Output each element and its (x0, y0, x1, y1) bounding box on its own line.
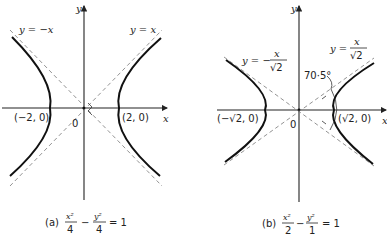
svg-text:√2: √2 (270, 62, 283, 73)
caption-den2-a: 4 (96, 224, 102, 235)
caption-a: (a) x² 4 − y² 4 = 1 (45, 212, 127, 235)
y-label-b: y (290, 3, 297, 14)
svg-text:x: x (274, 48, 280, 59)
caption-minus-a: − (81, 217, 89, 228)
y-label-a: y (75, 3, 82, 14)
svg-text:x: x (354, 36, 360, 47)
x-label-a: x (163, 113, 169, 124)
hyperbola-left-a (10, 37, 51, 176)
caption-num1-b: x² (283, 213, 291, 222)
caption-minus-b: − (296, 218, 304, 229)
caption-rhs-a: = 1 (109, 217, 127, 228)
origin-label-b: 0 (290, 119, 296, 130)
panel-b: y x 0 y = − x √2 y = x √2 70·5° (−√2, 0)… (217, 3, 387, 236)
hyperbola-left-b (225, 60, 266, 162)
svg-text:y = −: y = − (241, 55, 271, 66)
svg-text:y =: y = (329, 43, 347, 54)
svg-text:√2: √2 (350, 50, 363, 61)
caption-num1-a: x² (66, 212, 74, 221)
caption-prefix-a: (a) (45, 217, 59, 228)
vertex-left-label-b: (−√2, 0) (217, 113, 259, 124)
hyperbola-figure: y x 0 y = −x y = x (−2, 0) (2, 0) (a) x²… (0, 0, 387, 244)
panel-a: y x 0 y = −x y = x (−2, 0) (2, 0) (a) x²… (2, 3, 169, 235)
asymptote-neg-label-a: y = −x (18, 24, 54, 35)
caption-rhs-b: = 1 (322, 218, 340, 229)
vertex-left-label-a: (−2, 0) (14, 112, 49, 123)
caption-prefix-b: (b) (262, 218, 276, 229)
asymptote-pos-label-b: y = x √2 (329, 36, 367, 61)
asymptote-neg-label-b: y = − x √2 (241, 48, 287, 73)
caption-num2-b: y² (306, 213, 315, 222)
caption-b: (b) x² 2 − y² 1 = 1 (262, 213, 340, 236)
caption-den1-b: 2 (285, 225, 291, 236)
caption-den2-b: 1 (309, 225, 315, 236)
vertex-right-label-b: (√2, 0) (338, 113, 371, 124)
asymptote-pos-label-a: y = x (129, 24, 156, 35)
x-label-b: x (382, 115, 387, 126)
angle-label-b: 70·5° (304, 70, 331, 81)
caption-num2-a: y² (93, 212, 102, 221)
caption-den1-a: 4 (67, 224, 73, 235)
vertex-right-label-a: (2, 0) (122, 112, 149, 123)
hyperbola-right-a (118, 38, 161, 176)
origin-label-a: 0 (72, 118, 78, 129)
